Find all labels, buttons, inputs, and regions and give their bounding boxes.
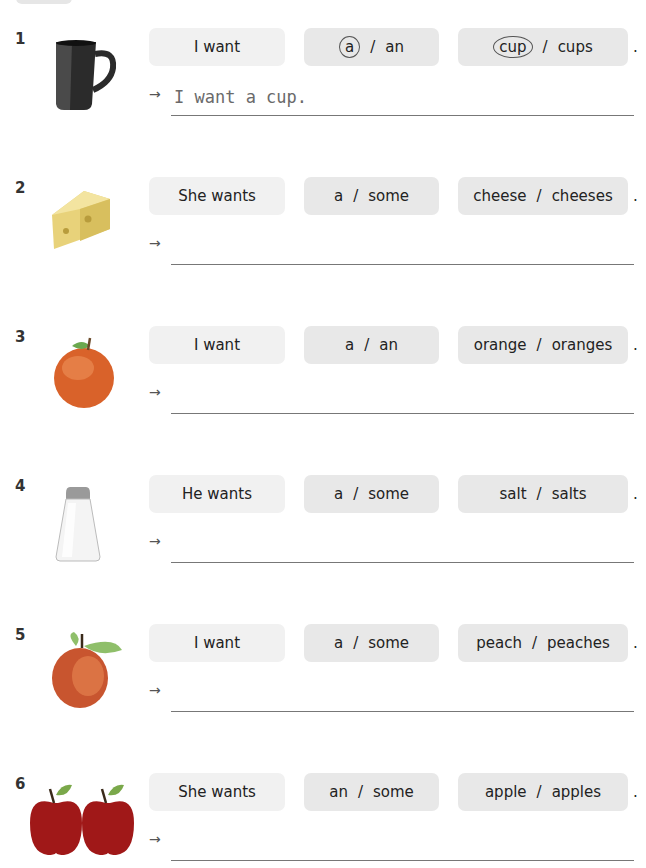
mug-icon [44,36,134,116]
subject-text: She wants [178,187,256,205]
article-option-b[interactable]: some [373,783,414,801]
item-number: 4 [15,477,25,495]
header-tab [16,0,72,4]
end-mark: . [633,485,638,503]
noun-option-b[interactable]: cups [558,38,593,56]
noun-choice-box[interactable]: cup / cups [458,28,628,66]
cheese-icon [44,185,134,265]
noun-option-a[interactable]: peach [476,634,522,652]
exercise-item-2: 2 She wants a / some cheese / cheeses . … [0,177,646,317]
arrow-icon: → [149,831,161,847]
subject-text: I want [194,634,240,652]
article-choice-box[interactable]: a / an [304,326,439,364]
article-option-b[interactable]: some [368,187,409,205]
answer-line[interactable] [171,860,634,861]
article-choice-box[interactable]: a / some [304,177,439,215]
article-option-a[interactable]: a [345,336,354,354]
end-mark: . [633,187,638,205]
noun-option-b[interactable]: peaches [547,634,610,652]
noun-choice-box[interactable]: salt / salts [458,475,628,513]
noun-option-a[interactable]: apple [485,783,527,801]
noun-option-a[interactable]: orange [474,336,527,354]
subject-box: I want [149,326,285,364]
item-number: 1 [15,30,25,48]
answer-line[interactable] [171,115,634,116]
exercise-item-6: 6 She wants an / some apple / apples . → [0,773,646,868]
two-apples-icon [26,781,136,861]
noun-choice-box[interactable]: apple / apples [458,773,628,811]
arrow-icon: → [149,533,161,549]
answer-line[interactable] [171,413,634,414]
end-mark: . [633,634,638,652]
noun-option-a[interactable]: salt [500,485,527,503]
noun-option-b[interactable]: apples [552,783,601,801]
exercise-item-4: 4 He wants a / some salt / salts . → [0,475,646,615]
article-option-a[interactable]: an [329,783,348,801]
end-mark: . [633,38,638,56]
subject-box: I want [149,624,285,662]
item-number: 6 [15,775,25,793]
item-number: 5 [15,626,25,644]
article-choice-box[interactable]: a / some [304,624,439,662]
end-mark: . [633,336,638,354]
noun-option-a[interactable]: cheese [473,187,526,205]
subject-text: She wants [178,783,256,801]
exercise-item-1: 1 I want a / an cup / cups . → I want a … [0,28,646,168]
article-option-b[interactable]: an [379,336,398,354]
end-mark: . [633,783,638,801]
answer-line[interactable] [171,711,634,712]
noun-option-b[interactable]: oranges [552,336,613,354]
answer-line[interactable] [171,562,634,563]
subject-box: She wants [149,773,285,811]
subject-text: I want [194,38,240,56]
subject-box: I want [149,28,285,66]
noun-option-a-circled[interactable]: cup [493,36,532,58]
noun-option-b[interactable]: salts [552,485,587,503]
article-option-a[interactable]: a [334,187,343,205]
subject-box: She wants [149,177,285,215]
exercise-item-5: 5 I want a / some peach / peaches . → [0,624,646,764]
noun-choice-box[interactable]: cheese / cheeses [458,177,628,215]
noun-option-b[interactable]: cheeses [552,187,613,205]
article-choice-box[interactable]: an / some [304,773,439,811]
arrow-icon: → [149,235,161,251]
subject-text: I want [194,336,240,354]
item-number: 2 [15,179,25,197]
article-option-a[interactable]: a [334,634,343,652]
noun-choice-box[interactable]: peach / peaches [458,624,628,662]
arrow-icon: → [149,384,161,400]
salt-shaker-icon [44,483,134,563]
article-option-b[interactable]: some [368,485,409,503]
noun-choice-box[interactable]: orange / oranges [458,326,628,364]
exercise-item-3: 3 I want a / an orange / oranges . → [0,326,646,466]
arrow-icon: → [149,682,161,698]
subject-box: He wants [149,475,285,513]
article-option-b[interactable]: some [368,634,409,652]
peach-icon [44,632,134,712]
answer-line[interactable] [171,264,634,265]
answer-text[interactable]: I want a cup. [174,87,307,107]
article-option-a[interactable]: a [334,485,343,503]
item-number: 3 [15,328,25,346]
arrow-icon: → [149,86,161,102]
subject-text: He wants [182,485,252,503]
article-option-a-circled[interactable]: a [339,36,360,58]
orange-icon [44,334,134,414]
article-option-b[interactable]: an [385,38,404,56]
article-choice-box[interactable]: a / some [304,475,439,513]
article-choice-box[interactable]: a / an [304,28,439,66]
